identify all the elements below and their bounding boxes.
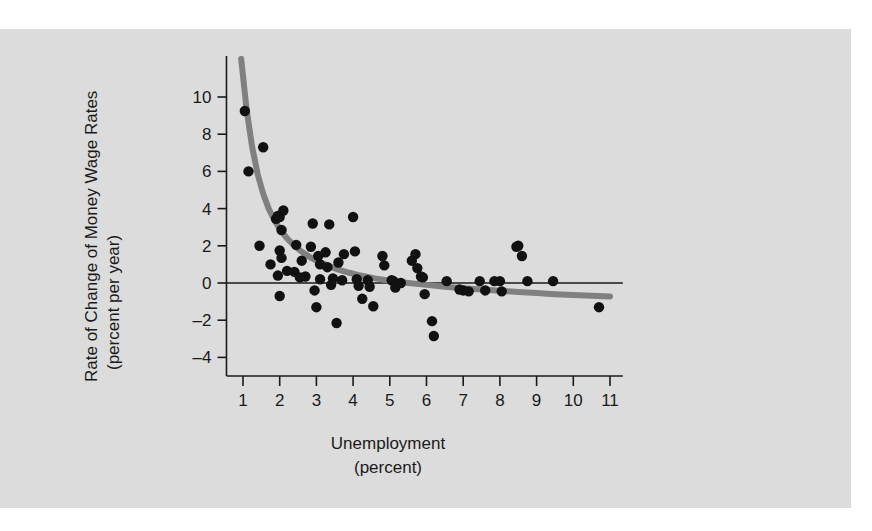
scatter-point	[357, 294, 367, 304]
scatter-point	[278, 205, 288, 215]
scatter-point	[368, 301, 378, 311]
scatter-point	[243, 166, 253, 176]
scatter-point	[364, 282, 374, 292]
scatter-point	[308, 218, 318, 228]
scatter-point	[418, 272, 428, 282]
scatter-point	[337, 275, 347, 285]
fitted-curve	[241, 59, 610, 297]
x-axis-title-line1: Unemployment	[0, 434, 872, 454]
scatter-point	[350, 246, 360, 256]
scatter-point	[273, 270, 283, 280]
scatter-point	[429, 331, 439, 341]
scatter-point	[297, 255, 307, 265]
scatter-point	[258, 142, 268, 152]
scatter-point	[311, 302, 321, 312]
scatter-point	[265, 259, 275, 269]
scatter-point	[331, 318, 341, 328]
scatter-point	[522, 276, 532, 286]
scatter-point	[275, 291, 285, 301]
y-axis-title-line2: (percent per year)	[104, 235, 124, 370]
scatter-point	[495, 276, 505, 286]
scatter-point	[326, 280, 336, 290]
scatter-point	[309, 285, 319, 295]
x-tick-label: 7	[458, 391, 467, 410]
scatter-point	[464, 286, 474, 296]
y-tick-label: 2	[202, 237, 211, 256]
scatter-point	[441, 276, 451, 286]
scatter-point	[322, 262, 332, 272]
scatter-point	[379, 260, 389, 270]
scatter-point	[276, 253, 286, 263]
y-tick-label: 4	[202, 200, 211, 219]
figure-page: –4–202468101234567891011 Rate of Change …	[0, 0, 872, 531]
scatter-point	[480, 285, 490, 295]
x-tick-label: 2	[275, 391, 284, 410]
y-tick-label: 10	[193, 88, 212, 107]
scatter-point	[276, 225, 286, 235]
x-tick-label: 6	[422, 391, 431, 410]
scatter-point	[594, 302, 604, 312]
y-tick-label: –4	[193, 348, 212, 367]
x-tick-label: 3	[312, 391, 321, 410]
scatter-point	[475, 276, 485, 286]
scatter-point	[419, 289, 429, 299]
scatter-point	[497, 286, 507, 296]
scatter-point	[315, 274, 325, 284]
scatter-point	[353, 281, 363, 291]
x-tick-label: 9	[532, 391, 541, 410]
y-axis-title-line1: Rate of Change of Money Wage Rates	[82, 91, 102, 382]
x-axis-title-line2: (percent)	[0, 458, 872, 478]
x-tick-label: 10	[564, 391, 583, 410]
scatter-points	[240, 106, 605, 341]
scatter-point	[513, 241, 523, 251]
scatter-point	[339, 249, 349, 259]
scatter-point	[320, 247, 330, 257]
x-tick-label: 4	[348, 391, 357, 410]
scatter-point	[517, 251, 527, 261]
scatter-point	[324, 219, 334, 229]
scatter-point	[254, 241, 264, 251]
fitted-curve-path	[241, 59, 610, 297]
scatter-point	[240, 106, 250, 116]
scatter-point	[306, 242, 316, 252]
scatter-point	[377, 251, 387, 261]
scatter-point	[427, 316, 437, 326]
scatter-point	[396, 278, 406, 288]
scatter-point	[348, 212, 358, 222]
x-axis-title-line1-text: Unemployment	[331, 434, 445, 453]
scatter-point	[291, 240, 301, 250]
y-axis-title: Rate of Change of Money Wage Rates (perc…	[60, 60, 120, 390]
x-tick-label: 8	[495, 391, 504, 410]
scatter-point	[295, 272, 305, 282]
x-tick-label: 11	[601, 391, 619, 410]
x-tick-label: 1	[238, 391, 247, 410]
scatter-point	[410, 249, 420, 259]
y-tick-label: 6	[202, 162, 211, 181]
y-tick-label: –2	[193, 311, 212, 330]
x-axis-title-line2-text: (percent)	[354, 458, 422, 477]
scatter-point	[548, 276, 558, 286]
y-tick-label: 0	[202, 274, 211, 293]
x-tick-label: 5	[385, 391, 394, 410]
y-tick-label: 8	[202, 125, 211, 144]
